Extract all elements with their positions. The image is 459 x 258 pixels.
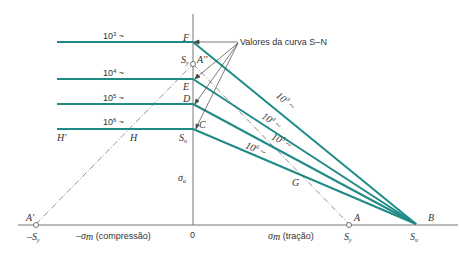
sn-label: Sn	[179, 133, 187, 143]
yield-line-left	[36, 64, 193, 224]
yield-line-right	[193, 64, 349, 224]
point-f-label: F	[183, 33, 189, 43]
point-d-label: D	[183, 94, 190, 104]
point-a-prime-label: A'	[26, 213, 34, 223]
label-1e6: 106 ~	[103, 118, 124, 127]
label-1e4: 104 ~	[103, 69, 124, 78]
callout-label: Valores da curva S–N	[240, 38, 327, 47]
point-c-label: C	[199, 120, 206, 130]
point-e-label: E	[183, 82, 189, 92]
sigma-a-label: σa	[178, 173, 186, 183]
diagonal-line-1e3	[193, 42, 416, 224]
point-a-label: A	[354, 213, 360, 223]
sy-horizontal-label: Sy	[344, 232, 352, 242]
point-a-marker	[347, 223, 352, 228]
diagonal-line-1e5	[193, 104, 416, 224]
point-h-prime-label: H'	[57, 133, 66, 143]
origin-label: 0	[190, 231, 195, 240]
point-a-double-prime-label: A''	[197, 55, 207, 65]
label-1e3: 103 ~	[103, 32, 124, 41]
diagonal-line-1e6	[193, 129, 416, 224]
diagonal-line-1e4	[193, 79, 416, 224]
point-h-label: H	[130, 133, 137, 143]
point-b-label: B	[428, 213, 434, 223]
point-a-double-prime-marker	[191, 62, 196, 67]
goodman-diagram: Valores da curva S–N 103 ~ 104 ~ 105 ~ 1…	[0, 0, 459, 258]
neg-sy-label: –Sy	[27, 232, 40, 242]
sy-vertical-label: Sy	[181, 55, 189, 65]
point-a-prime-marker	[34, 223, 39, 228]
su-label: Su	[410, 232, 418, 242]
point-g-label: G	[292, 178, 299, 188]
tension-axis-label: σm (tração)	[268, 231, 314, 241]
compression-axis-label: –σm (compressão)	[76, 231, 151, 241]
label-1e5: 105 ~	[103, 94, 124, 103]
diagram-graphics	[0, 0, 459, 258]
